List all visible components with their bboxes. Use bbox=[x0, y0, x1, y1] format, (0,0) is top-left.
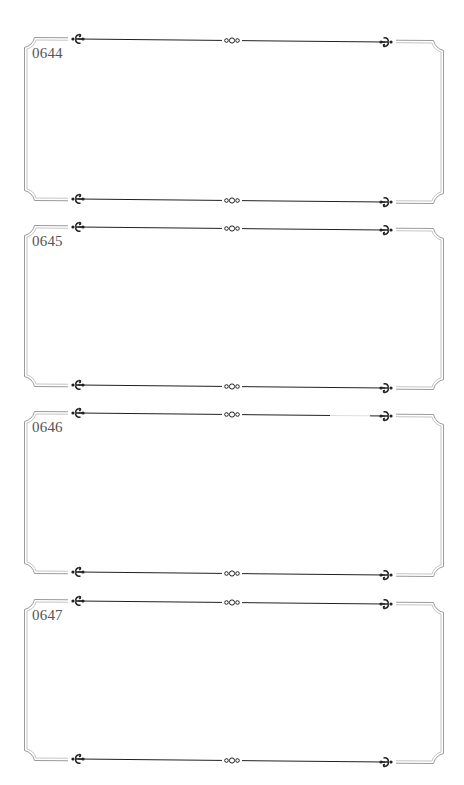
triple-ring-knot-icon bbox=[222, 383, 242, 391]
frame-id-label: 0644 bbox=[32, 45, 63, 62]
triple-ring-knot-icon bbox=[222, 225, 242, 233]
triple-ring-knot-icon bbox=[222, 570, 242, 578]
triple-ring-knot-icon bbox=[222, 599, 242, 607]
label-frame-0646: 0646 bbox=[0, 409, 464, 578]
frame-border bbox=[0, 409, 464, 580]
frame-id-label: 0646 bbox=[32, 419, 63, 436]
label-frame-0644: 0644 bbox=[0, 35, 464, 205]
triple-ring-knot-icon bbox=[222, 411, 242, 419]
frame-border bbox=[0, 223, 464, 393]
label-frame-0645: 0645 bbox=[0, 223, 464, 391]
triple-ring-knot-icon bbox=[222, 197, 242, 205]
triple-ring-knot-icon bbox=[222, 37, 242, 45]
frame-border bbox=[0, 597, 464, 767]
triple-ring-knot-icon bbox=[222, 757, 242, 765]
label-frame-0647: 0647 bbox=[0, 597, 464, 765]
frame-id-label: 0647 bbox=[32, 607, 63, 624]
frame-id-label: 0645 bbox=[32, 233, 63, 250]
frame-border bbox=[0, 35, 464, 207]
